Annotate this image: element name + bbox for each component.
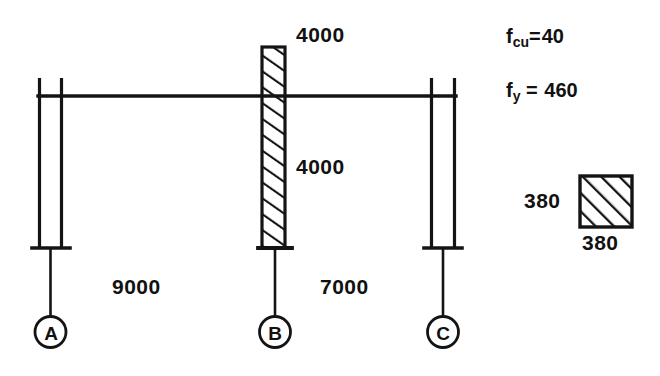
steel-strength-label: fy = 460 [506,80,578,100]
structural-frame-drawing [0,0,660,376]
grid-mark-c: C [433,324,453,343]
dimension-span-ab: 9000 [112,276,161,297]
dimension-lower-column-height: 4000 [296,156,345,177]
dimension-upper-column-height: 4000 [296,24,345,45]
steel-value: 460 [544,79,577,101]
column-a [32,78,70,316]
column-cross-section [580,176,632,227]
concrete-equals: = [529,25,542,47]
concrete-strength-label: fcu=40 [506,26,564,46]
steel-equals: = [526,79,539,101]
concrete-subscript: cu [513,34,529,50]
grid-mark-a: A [41,324,61,343]
steel-subscript: y [513,88,521,104]
concrete-symbol: f [506,25,513,47]
section-width-label: 380 [582,232,619,253]
section-depth-label: 380 [524,190,561,211]
column-b [258,47,292,316]
grid-mark-b: B [265,324,285,343]
diagram-canvas: 4000 4000 9000 7000 fcu=40 fy = 460 380 … [0,0,660,376]
concrete-value: 40 [542,25,564,47]
steel-symbol: f [506,79,513,101]
column-c [424,78,462,316]
dimension-span-bc: 7000 [320,276,369,297]
